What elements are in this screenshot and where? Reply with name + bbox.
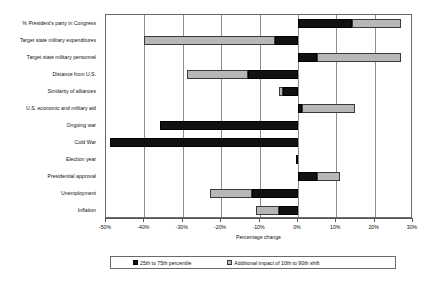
category-label: % President's party in Congress — [0, 20, 96, 26]
legend-label-inner: 25th to 75th percentile — [140, 260, 191, 266]
bar-row — [106, 100, 411, 117]
bar-segment-outer — [210, 189, 252, 198]
x-axis-tick-label: -20% — [214, 224, 226, 230]
bar-segment-inner — [298, 172, 317, 181]
category-label: Similarity of alliances — [0, 88, 96, 94]
category-label: Target state military personnel — [0, 54, 96, 60]
bar-segment-inner — [298, 104, 302, 113]
x-axis-title: Percentage change — [105, 234, 412, 240]
bar-segment-inner — [252, 189, 298, 198]
bar-segment-outer — [317, 172, 340, 181]
category-label: Election year — [0, 156, 96, 162]
bar-segment-outer — [352, 19, 402, 28]
bar-segment-inner — [298, 19, 352, 28]
bar-row — [106, 117, 411, 134]
legend-item-inner: 25th to 75th percentile — [133, 260, 191, 266]
bar-segment-inner — [283, 87, 298, 96]
bar-row — [106, 49, 411, 66]
x-axis-tick — [374, 218, 375, 222]
bar-segment-outer — [187, 70, 248, 79]
bar-segment-inner — [279, 206, 298, 215]
plot-area — [105, 14, 412, 218]
bar-row — [106, 134, 411, 151]
bar-segment-outer — [317, 53, 401, 62]
x-axis-tick-label: 30% — [407, 224, 417, 230]
chart-container: % President's party in CongressTarget st… — [0, 0, 433, 285]
category-label: Unemployment — [0, 190, 96, 196]
bar-segment-outer — [302, 104, 356, 113]
bar-segment-outer — [256, 206, 279, 215]
x-axis-tick — [143, 218, 144, 222]
bar-segment-inner — [298, 53, 317, 62]
x-axis-tick — [335, 218, 336, 222]
x-axis-tick-label: 10% — [330, 224, 340, 230]
x-axis-tick-label: -50% — [99, 224, 111, 230]
chart-legend: 25th to 75th percentile Additional impac… — [110, 256, 396, 269]
bar-row — [106, 83, 411, 100]
category-label: Cold War — [0, 139, 96, 145]
category-label: Target state military expenditures — [0, 37, 96, 43]
category-label: Distance from U.S. — [0, 71, 96, 77]
bar-row — [106, 32, 411, 49]
category-label: Inflation — [0, 207, 96, 213]
bar-segment-inner — [110, 138, 298, 147]
category-axis-labels: % President's party in CongressTarget st… — [0, 14, 100, 218]
category-label: Ongoing war — [0, 122, 96, 128]
bar-row — [106, 15, 411, 32]
bar-segment-outer — [144, 36, 274, 45]
x-axis-tick-label: -10% — [252, 224, 264, 230]
x-axis-tick — [182, 218, 183, 222]
x-axis-tick — [297, 218, 298, 222]
bar-row — [106, 151, 411, 168]
x-axis-tick — [105, 218, 106, 222]
x-axis-tick — [412, 218, 413, 222]
x-axis-tick — [220, 218, 221, 222]
category-label: U.S. economic and military aid — [0, 105, 96, 111]
legend-label-outer: Additional impact of 10th to 90th shift — [234, 260, 319, 266]
bar-row — [106, 185, 411, 202]
x-axis-tick-label: 20% — [368, 224, 378, 230]
bar-segment-inner — [296, 155, 298, 164]
legend-item-outer: Additional impact of 10th to 90th shift — [227, 260, 319, 266]
x-axis-tick-label: -30% — [176, 224, 188, 230]
legend-swatch-gray-icon — [227, 260, 232, 265]
bar-segment-inner — [248, 70, 298, 79]
bar-row — [106, 66, 411, 83]
legend-swatch-black-icon — [133, 260, 138, 265]
x-axis-tick-label: -40% — [137, 224, 149, 230]
bar-row — [106, 168, 411, 185]
x-axis-tick-label: 0% — [293, 224, 301, 230]
x-axis: -50%-40%-30%-20%-10%0%10%20%30% — [105, 218, 412, 219]
category-label: Presidential approval — [0, 173, 96, 179]
bar-segment-inner — [275, 36, 298, 45]
bar-segment-inner — [160, 121, 298, 130]
bar-row — [106, 202, 411, 219]
x-axis-tick — [259, 218, 260, 222]
